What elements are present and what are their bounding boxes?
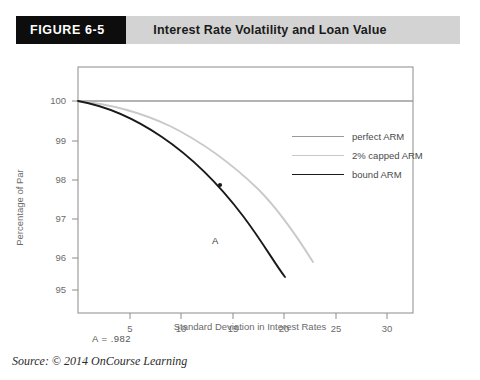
series-line-capped-arm (78, 101, 313, 262)
x-axis-title: Standard Deviation in Interest Rates (140, 321, 360, 332)
legend-item-capped-arm: 2% capped ARM (292, 148, 422, 163)
x-axis-ticks (130, 313, 387, 319)
x-tick-label-30: 30 (376, 323, 398, 334)
legend-item-bound-arm: bound ARM (292, 167, 422, 182)
y-tick-label-98: 98 (40, 174, 66, 185)
chart-plot-svg (0, 52, 480, 347)
legend-label-perfect-arm: perfect ARM (352, 131, 404, 142)
figure-title-bar: Interest Rate Volatility and Loan Value (126, 16, 460, 44)
y-tick-label-100: 100 (40, 95, 66, 106)
data-point-a-marker (218, 183, 222, 187)
y-tick-label-95: 95 (40, 284, 66, 295)
legend-swatch-bound-arm (292, 174, 344, 175)
page-title: Interest Rate Volatility and Loan Value (153, 23, 432, 37)
figure-header: FIGURE 6-5 Interest Rate Volatility and … (16, 16, 460, 44)
series-line-bound-arm (78, 101, 285, 277)
annotation-point-a-label: A (212, 235, 218, 246)
legend-item-perfect-arm: perfect ARM (292, 129, 422, 144)
plot-frame (78, 67, 413, 313)
figure-number-label: FIGURE 6-5 (30, 23, 105, 37)
legend-swatch-capped-arm (292, 155, 344, 156)
source-line: Source: © 2014 OnCourse Learning (12, 354, 187, 369)
chart-region: 100 99 98 97 96 95 5 10 15 20 25 30 Perc… (0, 52, 480, 347)
figure-number-badge: FIGURE 6-5 (16, 16, 126, 44)
y-axis-ticks (72, 101, 78, 290)
y-tick-label-96: 96 (40, 252, 66, 263)
chart-legend: perfect ARM 2% capped ARM bound ARM (292, 129, 422, 186)
y-tick-label-99: 99 (40, 135, 66, 146)
legend-label-capped-arm: 2% capped ARM (352, 150, 423, 161)
y-axis-title: Percentage of Par (14, 163, 25, 253)
annotation-a-value: A = .982 (92, 333, 131, 344)
legend-label-bound-arm: bound ARM (352, 169, 402, 180)
y-tick-label-97: 97 (40, 213, 66, 224)
legend-swatch-perfect-arm (292, 136, 344, 137)
